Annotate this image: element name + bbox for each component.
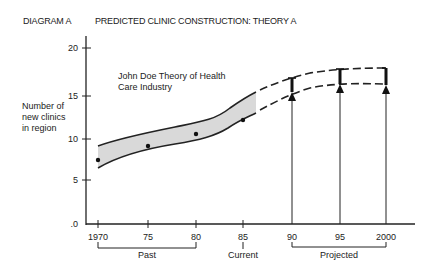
x-tick-1970: 1970 bbox=[88, 232, 108, 242]
x-tick-90: 90 bbox=[287, 232, 297, 242]
projected-bracket bbox=[292, 242, 386, 247]
chart-canvas: 20 15 10 5 .0 1970 75 80 85 90 95 2000 P… bbox=[0, 0, 437, 275]
x-tick-2000: 2000 bbox=[376, 232, 396, 242]
x-tick-75: 75 bbox=[143, 232, 153, 242]
x-tick-95: 95 bbox=[335, 232, 345, 242]
past-bracket bbox=[98, 242, 196, 248]
projection-range-1995 bbox=[336, 69, 344, 224]
past-label: Past bbox=[138, 250, 157, 260]
projection-range-2000 bbox=[382, 68, 390, 224]
projected-lower-dashed bbox=[260, 84, 385, 110]
y-tick-10: 10 bbox=[68, 134, 78, 144]
x-tick-80: 80 bbox=[191, 232, 201, 242]
x-tick-85: 85 bbox=[238, 232, 248, 242]
projected-label: Projected bbox=[320, 250, 358, 260]
y-tick-20: 20 bbox=[68, 43, 78, 53]
y-tick-5: 5 bbox=[73, 175, 78, 185]
projection-range-1990 bbox=[288, 78, 296, 224]
y-tick-15: 15 bbox=[68, 91, 78, 101]
y-tick-0: .0 bbox=[70, 219, 78, 229]
current-label: Current bbox=[228, 250, 259, 260]
